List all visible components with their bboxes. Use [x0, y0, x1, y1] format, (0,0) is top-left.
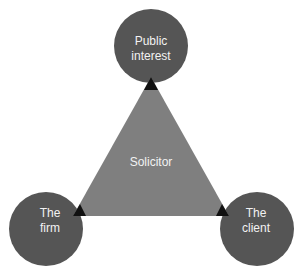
node-the-client-label-1: The [246, 206, 267, 220]
stakeholder-diagram: Public interest The firm The client Soli… [0, 0, 302, 271]
node-the-firm-label-1: The [40, 206, 61, 220]
solicitor-triangle [73, 77, 229, 216]
solicitor-label: Solicitor [130, 155, 173, 169]
node-public-interest-label-2: interest [131, 49, 171, 63]
node-public-interest-label-1: Public [135, 34, 168, 48]
node-the-client-label-2: client [242, 221, 271, 235]
node-the-firm-label-2: firm [40, 221, 60, 235]
